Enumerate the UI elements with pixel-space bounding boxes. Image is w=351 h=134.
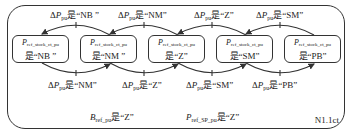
- transition-label-bottom-3: ΔPpu是“PB”: [252, 80, 297, 93]
- transition-label-top-0: ΔPpu是“NB ”: [50, 10, 99, 23]
- transition-label-top-1: ΔPpu是“NM”: [118, 10, 167, 23]
- state-z: Pref_stock_ct_pu 是“Z”: [148, 35, 205, 63]
- transition-label-top-3: ΔPpu是“SM”: [256, 10, 303, 23]
- state-value: 是“NM ”: [81, 50, 136, 62]
- state-pb: Pref_stock_ct_pu 是“PB”: [284, 35, 341, 63]
- transition-label-top-2: ΔPpu是“Z”: [194, 10, 234, 23]
- state-value: 是“NB ”: [13, 50, 68, 62]
- state-variable: Pref_stock_ct_pu: [285, 38, 340, 50]
- state-sm: Pref_stock_ct_pu 是“SM”: [216, 35, 273, 63]
- global-condition-p-ref-sp: Pref_SP_pu是“Z”: [186, 112, 239, 125]
- state-variable: Pref_stock_ct_pu: [81, 38, 136, 50]
- state-value: 是“SM”: [217, 50, 272, 62]
- state-variable: Pref_stock_ct_pu: [149, 38, 204, 50]
- transition-label-bottom-0: ΔPpu是“NM”: [48, 80, 97, 93]
- transition-label-bottom-2: ΔPpu是“SM”: [186, 80, 233, 93]
- transition-label-bottom-1: ΔPpu是“Z”: [122, 80, 162, 93]
- state-nm: Pref_stock_ct_pu 是“NM ”: [80, 35, 137, 63]
- state-variable: Pref_stock_ct_pu: [217, 38, 272, 50]
- frame-id-label: N1.1ct: [315, 115, 339, 125]
- state-nb: Pref_stock_ct_pu 是“NB ”: [12, 35, 69, 63]
- state-variable: Pref_stock_ct_pu: [13, 38, 68, 50]
- state-value: 是“PB”: [285, 50, 340, 62]
- state-value: 是“Z”: [149, 50, 204, 62]
- global-condition-b-ref: Bref_pu是“Z”: [90, 112, 134, 125]
